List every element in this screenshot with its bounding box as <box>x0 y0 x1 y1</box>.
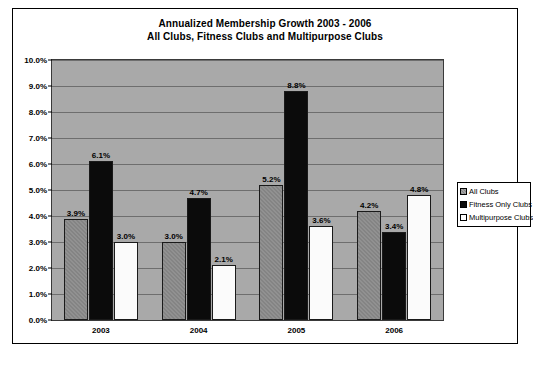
y-axis-tick-label: 10.0% <box>24 56 47 65</box>
bar-group: 3.9%6.1%3.0%2003 <box>52 60 150 320</box>
chart-frame: Annualized Membership Growth 2003 - 2006… <box>12 8 518 344</box>
y-axis-tick-label: 2.0% <box>29 264 47 273</box>
bar-value-label: 3.0% <box>165 232 183 241</box>
y-axis-tick-label: 8.0% <box>29 108 47 117</box>
y-axis-tick-label: 1.0% <box>29 290 47 299</box>
x-axis-tick-label: 2005 <box>287 326 305 335</box>
chart-title-block: Annualized Membership Growth 2003 - 2006… <box>13 17 517 43</box>
chart-legend: All Clubs Fitness Only Clubs Multipurpos… <box>457 182 531 227</box>
bar[interactable]: 4.7% <box>187 198 211 320</box>
bar-value-label: 4.2% <box>360 201 378 210</box>
bar[interactable]: 3.0% <box>114 242 138 320</box>
bar-value-label: 4.8% <box>410 185 428 194</box>
bar[interactable]: 3.0% <box>162 242 186 320</box>
bar[interactable]: 3.6% <box>309 226 333 320</box>
legend-item[interactable]: All Clubs <box>460 185 528 198</box>
bar[interactable]: 2.1% <box>212 265 236 320</box>
legend-label-all-clubs: All Clubs <box>469 187 499 196</box>
legend-swatch-fitness-only-clubs <box>460 201 467 208</box>
bar-group: 3.0%4.7%2.1%2004 <box>150 60 248 320</box>
bar-group: 4.2%3.4%4.8%2006 <box>345 60 443 320</box>
bar-value-label: 5.2% <box>262 175 280 184</box>
bar-value-label: 3.9% <box>67 209 85 218</box>
bar[interactable]: 3.9% <box>64 219 88 320</box>
bar[interactable]: 3.4% <box>382 232 406 320</box>
y-axis-tick-label: 3.0% <box>29 238 47 247</box>
x-axis-tick-label: 2006 <box>385 326 403 335</box>
y-axis-tick-label: 9.0% <box>29 82 47 91</box>
bar[interactable]: 4.2% <box>357 211 381 320</box>
legend-swatch-all-clubs <box>460 188 467 195</box>
x-axis-tick-label: 2004 <box>190 326 208 335</box>
bar-value-label: 6.1% <box>92 151 110 160</box>
y-axis-tick-label: 4.0% <box>29 212 47 221</box>
bar-group: 5.2%8.8%3.6%2005 <box>248 60 346 320</box>
plot-area: 10.0%9.0%8.0%7.0%6.0%5.0%4.0%3.0%2.0%1.0… <box>51 59 444 321</box>
bar-value-label: 4.7% <box>190 188 208 197</box>
legend-item[interactable]: Multipurpose Clubs <box>460 211 528 224</box>
legend-item[interactable]: Fitness Only Clubs <box>460 198 528 211</box>
y-axis-tick-label: 0.0% <box>29 316 47 325</box>
y-axis-tick-label: 6.0% <box>29 160 47 169</box>
legend-label-fitness-only-clubs: Fitness Only Clubs <box>469 200 532 209</box>
chart-title: Annualized Membership Growth 2003 - 2006 <box>13 17 517 30</box>
x-axis-tick-label: 2003 <box>92 326 110 335</box>
bar-value-label: 8.8% <box>287 81 305 90</box>
y-axis-tick-label: 5.0% <box>29 186 47 195</box>
legend-swatch-multipurpose-clubs <box>460 214 467 221</box>
legend-label-multipurpose-clubs: Multipurpose Clubs <box>469 213 533 222</box>
chart-subtitle: All Clubs, Fitness Clubs and Multipurpos… <box>13 30 517 43</box>
bar-value-label: 3.6% <box>312 216 330 225</box>
bar-value-label: 3.4% <box>385 222 403 231</box>
y-axis-tick-label: 7.0% <box>29 134 47 143</box>
bar-value-label: 3.0% <box>117 232 135 241</box>
bar[interactable]: 5.2% <box>259 185 283 320</box>
bar[interactable]: 4.8% <box>407 195 431 320</box>
bar-value-label: 2.1% <box>215 255 233 264</box>
bar[interactable]: 8.8% <box>284 91 308 320</box>
bar[interactable]: 6.1% <box>89 161 113 320</box>
